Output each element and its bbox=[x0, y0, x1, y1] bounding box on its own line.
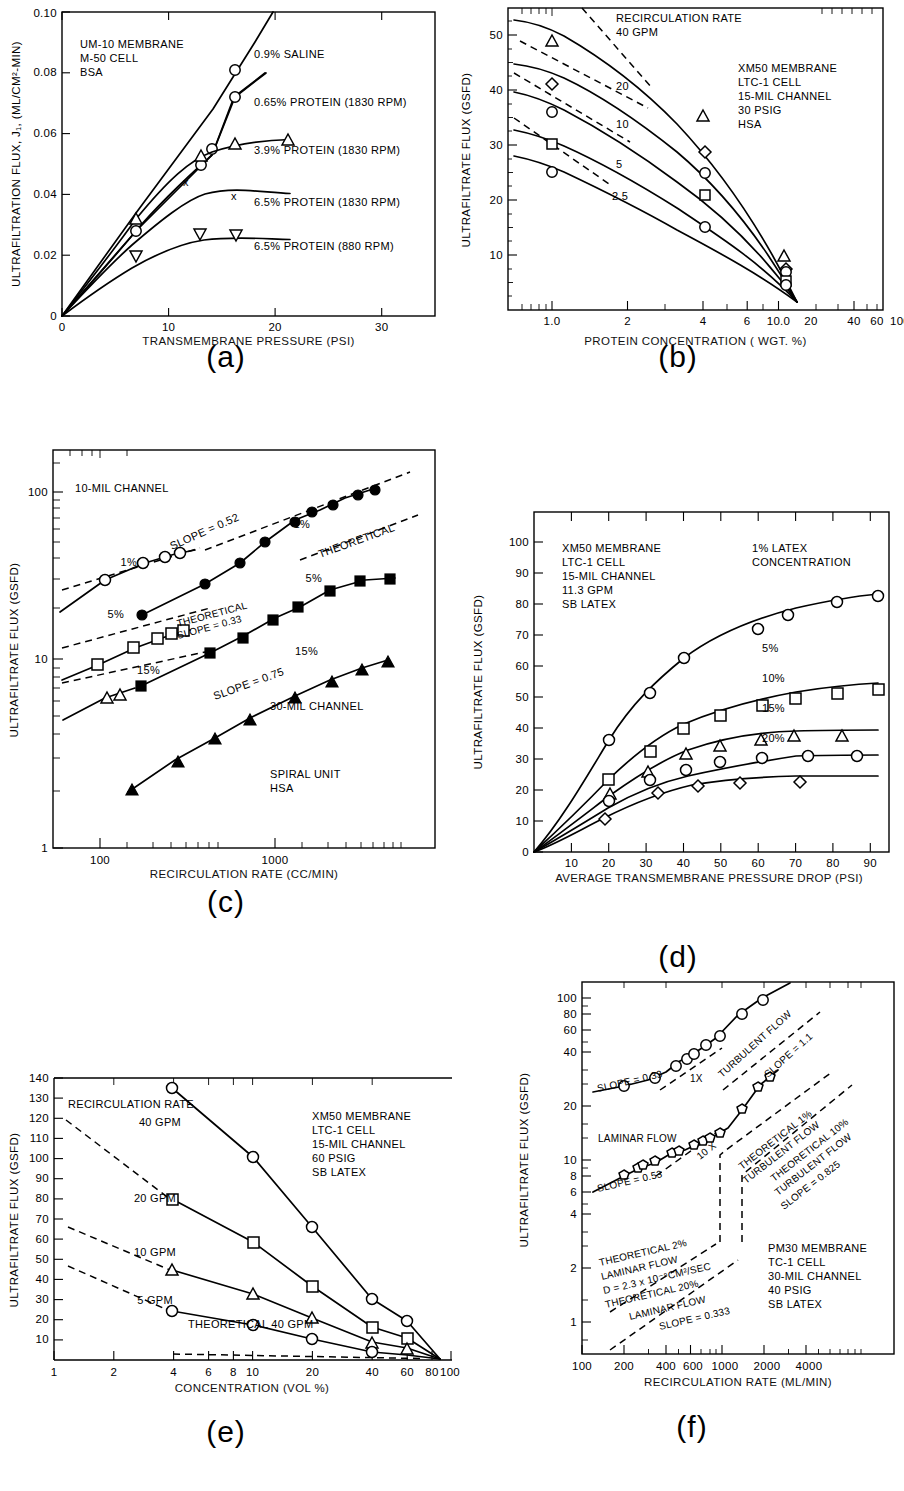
data-marker bbox=[603, 774, 614, 785]
panel-b-ytick-3: 40 bbox=[490, 84, 503, 96]
panel-e-xtick-7: 40 bbox=[365, 1366, 378, 1378]
panel-e-annot-3: 10 GPM bbox=[134, 1246, 176, 1258]
data-marker bbox=[715, 1128, 725, 1137]
panel-a-xtick-3: 30 bbox=[375, 321, 388, 333]
panel-d-annot-3: 11.3 GPM bbox=[562, 584, 613, 596]
panel-f-annot-slope11: SLOPE = 1.1 bbox=[762, 1030, 815, 1079]
panel-e-ytick-8: 90 bbox=[36, 1172, 49, 1184]
panel-e-annot-5: THEORETICAL 40 GPM bbox=[188, 1318, 313, 1330]
panel-c-series-spiral-1pct bbox=[137, 485, 380, 620]
data-marker bbox=[205, 648, 215, 658]
panel-b-annot-5: 30 PSIG bbox=[738, 104, 782, 116]
data-marker bbox=[160, 552, 171, 563]
data-marker bbox=[679, 653, 690, 664]
data-marker bbox=[645, 746, 656, 757]
panel-a-x-axis-title: TRANSMEMBRANE PRESSURE (PSI) bbox=[62, 335, 435, 347]
panel-b-label-10: 10 bbox=[616, 118, 629, 130]
panel-c-ytick-1: 10 bbox=[35, 653, 48, 665]
panel-f-annot-30mil: 30-MIL CHANNEL bbox=[768, 1270, 862, 1282]
panel-b-annot-0: RECIRCULATION RATE bbox=[616, 12, 742, 24]
data-marker bbox=[546, 78, 558, 90]
panel-a: 0 0.02 0.04 0.06 0.08 0.10 0 10 20 bbox=[0, 0, 452, 330]
panel-f-y-axis: 1 2 4 6 8 10 20 40 60 80 100 bbox=[557, 992, 591, 1341]
panel-e-annot-2: 20 GPM bbox=[134, 1192, 176, 1204]
panel-d-ytick-9: 90 bbox=[516, 567, 529, 579]
data-marker bbox=[293, 602, 303, 612]
panel-e-y-axis: 140 130 120 110 100 90 80 70 60 50 40 30… bbox=[29, 1072, 63, 1346]
panel-e-ytick-6: 70 bbox=[36, 1213, 49, 1225]
data-marker bbox=[803, 751, 814, 762]
data-marker bbox=[681, 765, 692, 776]
panel-e-annot-0: RECIRCULATION RATE bbox=[68, 1098, 194, 1110]
panel-e-ytick-10: 110 bbox=[30, 1132, 49, 1144]
panel-a-ytick-1: 0.02 bbox=[33, 249, 57, 261]
panel-d-xtick-6: 70 bbox=[789, 857, 802, 869]
panel-d-xtick-8: 90 bbox=[864, 857, 877, 869]
data-marker bbox=[260, 537, 270, 547]
panel-c-plot-frame bbox=[53, 450, 435, 848]
panel-c-ytick-0: 1 bbox=[41, 842, 48, 854]
panel-f: 1 2 4 6 8 10 20 40 60 80 100 bbox=[480, 960, 904, 1430]
panel-f-annot-sblatex: SB LATEX bbox=[768, 1298, 823, 1310]
data-marker bbox=[136, 681, 146, 691]
data-marker bbox=[235, 558, 245, 568]
panel-d-xtick-4: 50 bbox=[714, 857, 727, 869]
data-marker bbox=[152, 633, 163, 644]
panel-b-label-25: 2.5 bbox=[612, 190, 628, 202]
panel-d-xtick-1: 20 bbox=[602, 857, 615, 869]
panel-a-label-65-880: 6.5% PROTEIN (880 RPM) bbox=[254, 240, 394, 252]
panel-c-y-axis-title: ULTRAFILTRATE FLUX (GSFD) bbox=[8, 563, 20, 738]
data-marker bbox=[547, 107, 557, 117]
panel-a-series-39-protein bbox=[62, 134, 294, 316]
data-marker bbox=[778, 250, 790, 261]
data-marker bbox=[753, 624, 764, 635]
panel-d-annot-4: SB LATEX bbox=[562, 598, 617, 610]
panel-f-annot-turbulent: TURBULENT FLOW bbox=[716, 1008, 794, 1080]
panel-d-ytick-7: 70 bbox=[516, 629, 529, 641]
data-marker bbox=[794, 776, 806, 788]
data-marker bbox=[715, 1031, 725, 1041]
panel-b-label-5: 5 bbox=[616, 158, 622, 170]
panel-b-plot-frame bbox=[508, 8, 883, 310]
panel-f-ytick-8: 60 bbox=[564, 1024, 577, 1036]
panel-f-xtick-1: 200 bbox=[614, 1360, 634, 1372]
panel-d-ytick-5: 50 bbox=[516, 691, 529, 703]
data-marker bbox=[238, 633, 248, 643]
panel-b-annot-1: 40 GPM bbox=[616, 26, 658, 38]
panel-c-annot-slope052: SLOPE = 0.52 bbox=[168, 511, 241, 552]
panel-f-annot-1x: 1X bbox=[690, 1073, 703, 1084]
data-marker bbox=[638, 1160, 648, 1169]
panel-a-ytick-4: 0.08 bbox=[33, 66, 57, 78]
panel-f-ytick-4: 8 bbox=[570, 1170, 577, 1182]
data-marker bbox=[101, 692, 113, 703]
panel-f-annot-tc1: TC-1 CELL bbox=[768, 1256, 826, 1268]
data-marker bbox=[200, 579, 210, 589]
data-marker bbox=[758, 995, 768, 1005]
panel-e-xtick-0: 1 bbox=[51, 1366, 58, 1378]
panel-e-caption: (e) bbox=[0, 1415, 452, 1449]
panel-d-xtick-7: 80 bbox=[826, 857, 839, 869]
data-marker-x1: x bbox=[183, 176, 189, 188]
panel-d-annot-latex-1: 1% LATEX bbox=[752, 542, 808, 554]
panel-a-annot-2: BSA bbox=[80, 66, 103, 78]
panel-b-y-axis-title: ULTRAFILTRATE FLUX (GSFD) bbox=[460, 73, 472, 248]
panel-b-x-axis-title: PROTEIN CONCENTRATION ( WGT. %) bbox=[508, 335, 883, 347]
panel-d-y-axis-title: ULTRAFILTRATE FLUX (GSFD) bbox=[472, 595, 484, 770]
panel-d-annot-latex-2: CONCENTRATION bbox=[752, 556, 851, 568]
panel-d-label-20pct: 20% bbox=[762, 732, 785, 744]
panel-c-xtick-0: 100 bbox=[90, 854, 110, 866]
panel-c-label-5pct: 5% bbox=[108, 608, 125, 620]
panel-b-xtick-4: 10.0 bbox=[767, 315, 791, 327]
data-marker bbox=[790, 693, 801, 704]
panel-c-annot-10mil: 10-MIL CHANNEL bbox=[75, 482, 169, 494]
data-marker bbox=[781, 280, 791, 290]
panel-a-ytick-2: 0.04 bbox=[33, 188, 57, 200]
data-marker bbox=[650, 1156, 660, 1165]
panel-e-ytick-4: 50 bbox=[36, 1253, 49, 1265]
panel-e-xtick-2: 4 bbox=[170, 1366, 177, 1378]
panel-e-xtick-6: 20 bbox=[306, 1366, 319, 1378]
panel-b-xtick-0: 1.0 bbox=[544, 315, 561, 327]
panel-a-label-065: 0.65% PROTEIN (1830 RPM) bbox=[254, 96, 407, 108]
data-marker bbox=[229, 138, 241, 149]
panel-b-y-axis: 10 20 30 40 50 bbox=[490, 21, 517, 296]
